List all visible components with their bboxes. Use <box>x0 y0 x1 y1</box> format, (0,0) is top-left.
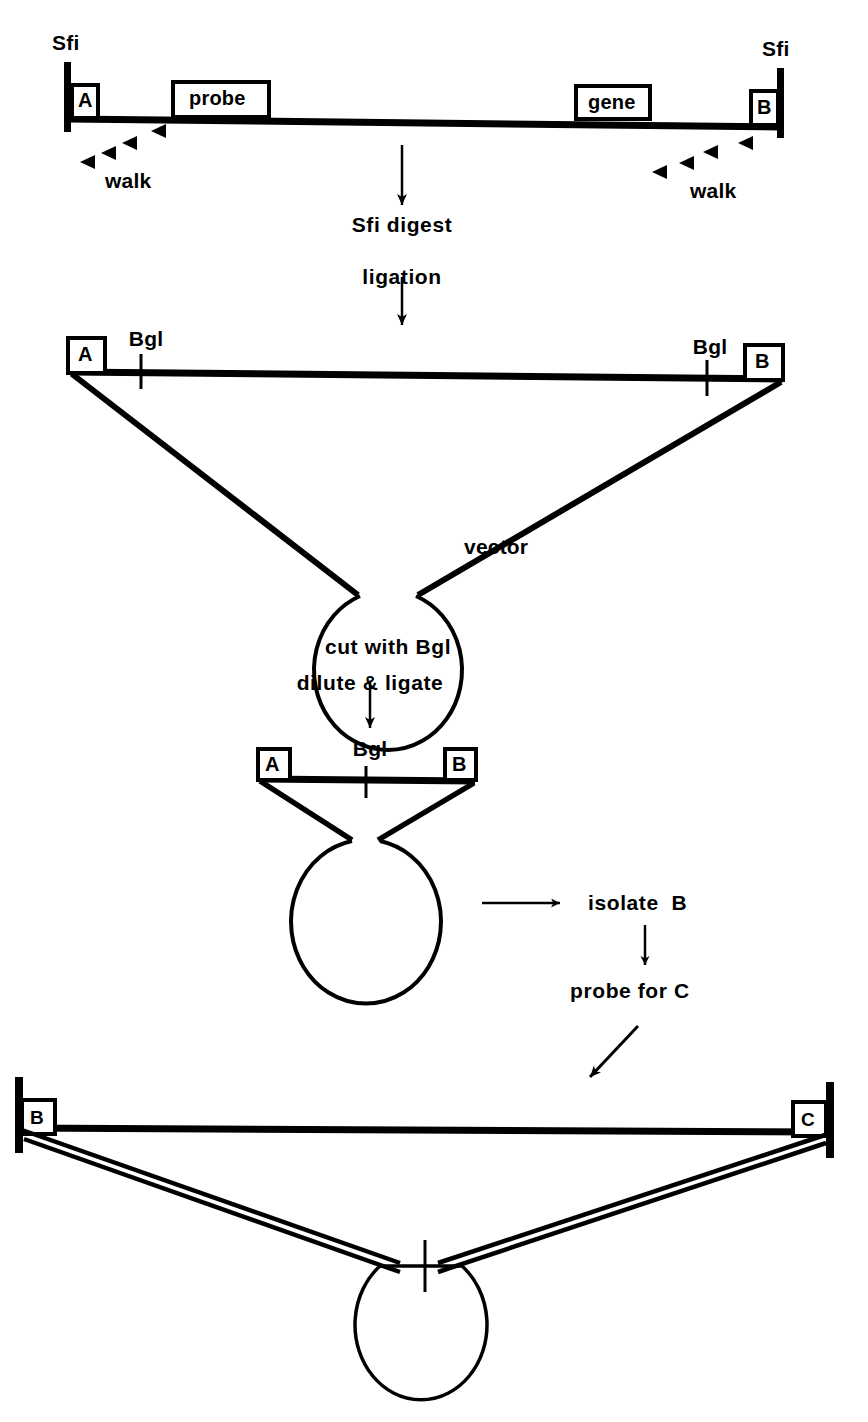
vector-leg-right-step3 <box>378 783 474 840</box>
step3-construct <box>258 749 476 1004</box>
walk-arrowheads-left <box>80 124 166 169</box>
segment-label-b-step1: B <box>757 97 772 117</box>
segment-label-a-step2: A <box>78 344 93 364</box>
segment-label-b-step4: B <box>30 1108 44 1127</box>
vector-leg-right-outer-step4 <box>438 1134 828 1263</box>
dna-backbone-step2 <box>70 372 783 379</box>
branch-label-isolate-b: isolate B <box>588 892 687 913</box>
dna-backbone-step1 <box>68 119 781 127</box>
step-label-sfi-digest: Sfi digest <box>352 214 453 235</box>
vector-leg-left-step3 <box>260 781 352 840</box>
branch-label-probe-for-c: probe for C <box>570 980 690 1001</box>
segment-label-b-step2: B <box>755 351 770 371</box>
vector-loop-step3 <box>291 841 441 1004</box>
vector-leg-left-outer-step4 <box>22 1130 400 1263</box>
segment-label-c-step4: C <box>801 1110 815 1129</box>
step1-construct <box>64 62 784 179</box>
segment-label-a-step1: A <box>78 90 93 110</box>
sfi-label-left: Sfi <box>52 32 79 53</box>
step4-construct <box>15 1077 834 1400</box>
walk-label-right: walk <box>690 180 736 201</box>
bgl-label-right-step2: Bgl <box>693 336 727 357</box>
vector-label: vector <box>464 536 528 557</box>
vector-leg-right-inner-step4 <box>438 1143 826 1272</box>
caption-cut-with-bgl: cut with Bgl <box>325 636 451 657</box>
segment-label-a-step3: A <box>265 754 280 774</box>
walk-label-left: walk <box>105 170 151 191</box>
vector-leg-left-inner-step4 <box>24 1139 400 1272</box>
vector-leg-left-step2 <box>72 374 358 595</box>
probe-label: probe <box>189 88 246 108</box>
figure-root: Sfi Sfi A probe gene B walk walk Sfi dig… <box>0 0 868 1422</box>
branch-arrow-diagonal <box>590 1026 638 1077</box>
vector-leg-right-step2 <box>418 382 781 595</box>
bgl-label-step3: Bgl <box>353 738 387 759</box>
walk-arrowheads-right <box>652 136 753 179</box>
step-label-dilute-ligate: dilute & ligate <box>297 672 444 693</box>
vector-loop-step4 <box>355 1266 487 1400</box>
step-label-ligation: ligation <box>362 266 441 287</box>
sfi-label-right: Sfi <box>762 38 789 59</box>
bgl-label-left-step2: Bgl <box>129 328 163 349</box>
gene-label: gene <box>588 92 635 112</box>
segment-label-b-step3: B <box>452 754 467 774</box>
dna-backbone-step4 <box>20 1128 830 1132</box>
